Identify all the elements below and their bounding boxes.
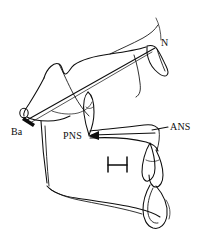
tracing-canvas xyxy=(0,0,208,239)
ans-leader-line xyxy=(152,127,168,130)
chin-symphysis-outline xyxy=(143,185,167,228)
pterygomaxillary-fissure xyxy=(84,92,94,135)
incisors-outline xyxy=(142,143,163,187)
posterior-pharyngeal-wall xyxy=(41,121,49,186)
landmark-label-pns: PNS xyxy=(63,131,82,141)
landmark-label-n: N xyxy=(161,38,168,48)
landmark-label-ba: Ba xyxy=(11,127,23,137)
orbital-rim-curve xyxy=(134,55,140,97)
hyoid-bone-mark xyxy=(108,157,127,172)
cephalometric-figure: Ba N PNS ANS xyxy=(0,0,208,239)
maxilla-palate-outline xyxy=(90,125,159,151)
landmark-label-ans: ANS xyxy=(170,122,191,132)
